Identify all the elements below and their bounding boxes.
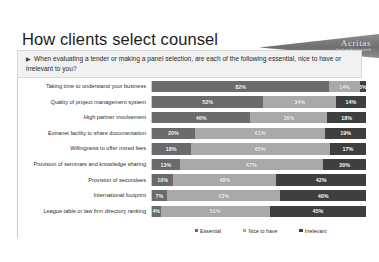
bar-segment-irrelevant: 40% [280,190,366,201]
bar-segment-essential: 20% [152,128,195,139]
bar-segment-essential: 4% [152,206,161,217]
legend-swatch-icon [195,229,198,232]
legend-item: Essential [195,228,221,234]
category-label: Willingness to offer mixed fees [18,145,151,152]
legend-label: Irrelevant [305,228,327,234]
legend-swatch-icon [243,229,246,232]
arrow-bullet-icon: ▶ [26,55,31,64]
category-label: Quality of project management system [18,99,151,106]
bar-segment-irrelevant: 3% [360,81,366,92]
bar-segment-essential: 82% [152,81,329,92]
bar-segment-nice-to-have: 53% [167,190,280,201]
bar-segment-irrelevant: 45% [270,206,366,217]
table-row: Quality of project management system52%3… [18,95,370,110]
table-row: Taking time to understand your business8… [18,79,370,94]
bar-segment-nice-to-have: 61% [195,128,326,139]
bar-segment-essential: 10% [152,174,173,185]
stacked-bar-chart: Taking time to understand your business8… [17,78,369,238]
question-text-wrap: ▶When evaluating a tender or making a pa… [26,54,355,73]
stacked-bar: 4%51%45% [151,206,366,217]
legend-label: Essential [200,228,221,234]
stacked-bar: 46%36%18% [151,112,366,123]
bar-segment-irrelevant: 42% [276,174,366,185]
page-title: How clients select counsel [22,30,218,49]
legend-item: Nice to have [243,228,277,234]
bar-segment-irrelevant: 20% [323,159,366,170]
stacked-bar: 7%53%40% [151,190,366,201]
stacked-bar: 13%67%20% [151,159,366,170]
bar-segment-nice-to-have: 34% [263,96,336,107]
category-label: Extranet facility to share documentation [18,130,151,137]
bar-segment-irrelevant: 19% [325,128,366,139]
chart-legend: EssentialNice to haveIrrelevant [151,225,370,236]
table-row: Provision of secondees10%48%42% [18,173,370,188]
legend-label: Nice to have [248,228,277,234]
plot-area: Taking time to understand your business8… [17,78,370,238]
table-row: High partner involvement46%36%18% [18,110,370,125]
bar-segment-essential: 7% [152,190,167,201]
category-label: Taking time to understand your business [18,83,151,90]
stacked-bar: 18%65%17% [151,143,366,154]
category-label: League table or law firm directory ranki… [18,208,151,215]
bar-segment-nice-to-have: 48% [173,174,276,185]
table-row: International footprint7%53%40% [18,188,370,203]
bar-segment-nice-to-have: 36% [250,112,327,123]
category-label: Provision of seminars and knowledge shar… [18,161,151,168]
bar-segment-essential: 13% [152,159,180,170]
table-row: Willingness to offer mixed fees18%65%17% [18,141,370,156]
bar-segment-nice-to-have: 51% [161,206,270,217]
category-label: International footprint [18,192,151,199]
table-row: League table or law firm directory ranki… [18,204,370,219]
bar-segment-essential: 18% [152,143,191,154]
stacked-bar: 82%14%3% [151,81,366,92]
bar-segment-nice-to-have: 67% [180,159,323,170]
bar-segment-irrelevant: 18% [327,112,366,123]
bar-segment-essential: 46% [152,112,250,123]
category-label: High partner involvement [18,114,151,121]
question-text: When evaluating a tender or making a pan… [26,55,341,72]
bar-segment-essential: 52% [152,96,263,107]
stacked-bar: 52%34%14% [151,96,366,107]
question-banner: ▶When evaluating a tender or making a pa… [17,50,362,78]
legend-swatch-icon [299,229,302,232]
table-row: Provision of seminars and knowledge shar… [18,157,370,172]
stacked-bar: 10%48%42% [151,174,366,185]
slide-header: How clients select counsel Acritas legal… [0,14,379,50]
bar-rows: Taking time to understand your business8… [18,78,370,223]
category-label: Provision of secondees [18,177,151,184]
bar-segment-nice-to-have: 14% [329,81,359,92]
legend-item: Irrelevant [299,228,326,234]
bar-segment-nice-to-have: 65% [191,143,330,154]
logo-name: Acritas [341,38,371,48]
table-row: Extranet facility to share documentation… [18,126,370,141]
stacked-bar: 20%61%19% [151,128,366,139]
bar-segment-irrelevant: 17% [330,143,366,154]
bar-segment-irrelevant: 14% [336,96,366,107]
slide: How clients select counsel Acritas legal… [0,0,379,262]
